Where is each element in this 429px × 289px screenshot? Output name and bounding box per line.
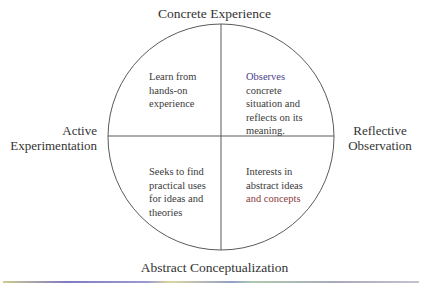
- pole-reflective-observation: Reflective Observation: [340, 123, 420, 153]
- quadrant-text-line: theories: [149, 206, 206, 220]
- quadrant-text-line: reflects on its: [246, 111, 303, 125]
- quadrant-text-line: for ideas and: [149, 192, 206, 206]
- quadrant-text-line: abstract ideas: [246, 179, 303, 193]
- quadrant-text-line: hands-on: [149, 84, 197, 98]
- quadrant-text-line: meaning.: [246, 124, 303, 138]
- pole-right-line-1: Reflective: [340, 123, 420, 138]
- quadrant-text-line: and concepts: [246, 192, 303, 206]
- quadrant-text-line: practical uses: [149, 179, 206, 193]
- pole-concrete-experience: Concrete Experience: [0, 6, 429, 21]
- quadrant-text-line: Learn from: [149, 70, 197, 84]
- quadrant-text-line: Interests in: [246, 165, 303, 179]
- quadrant-top-left: Learn from hands-on experience: [149, 70, 197, 111]
- quadrant-top-right: Observes concrete situation and reflects…: [246, 70, 303, 138]
- quadrant-text-line: Seeks to find: [149, 165, 206, 179]
- pole-active-experimentation: Active Experimentation: [10, 123, 97, 153]
- pole-right-line-2: Observation: [340, 138, 420, 153]
- quadrant-bottom-left: Seeks to find practical uses for ideas a…: [149, 165, 206, 219]
- pole-left-line-1: Active: [10, 123, 97, 138]
- pole-left-line-2: Experimentation: [10, 138, 97, 153]
- pole-abstract-conceptualization: Abstract Conceptualization: [0, 260, 429, 275]
- quadrant-text-line: experience: [149, 97, 197, 111]
- quadrant-text-line: Observes: [246, 70, 303, 84]
- quadrant-text-line: concrete: [246, 84, 303, 98]
- quadrant-text-line: situation and: [246, 97, 303, 111]
- bottom-divider: [3, 281, 419, 283]
- quadrant-bottom-right: Interests in abstract ideas and concepts: [246, 165, 303, 206]
- kolb-diagram: Concrete Experience Abstract Conceptuali…: [0, 0, 429, 289]
